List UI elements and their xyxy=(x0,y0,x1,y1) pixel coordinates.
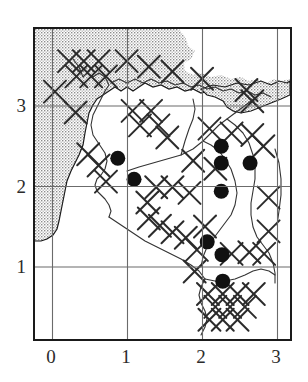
x-tick-label-2: 2 xyxy=(196,347,206,366)
record-dot-1 xyxy=(127,172,142,187)
record-dot-0 xyxy=(110,151,125,166)
presence-cross-25 xyxy=(182,150,204,172)
map-canvas xyxy=(35,29,290,339)
presence-cross-51 xyxy=(227,309,249,331)
x-tick-label-0: 0 xyxy=(46,347,56,366)
x-tick-label-3: 3 xyxy=(271,347,281,366)
presence-cross-52 xyxy=(243,283,265,305)
presence-cross-34 xyxy=(149,215,171,237)
record-dot-markers xyxy=(110,139,257,289)
y-tick-label-3: 3 xyxy=(0,96,26,115)
presence-cross-33 xyxy=(138,208,160,230)
x-tick-label-1: 1 xyxy=(121,347,131,366)
record-dot-2 xyxy=(214,139,229,154)
presence-cross-22 xyxy=(252,135,274,157)
figure-root: 0 1 2 3 3 2 1 xyxy=(0,0,308,382)
map-plot-area xyxy=(33,27,292,341)
presence-cross-18 xyxy=(156,126,178,148)
y-tick-label-1: 1 xyxy=(0,257,26,276)
presence-cross-31 xyxy=(258,187,280,209)
record-dot-7 xyxy=(215,247,230,262)
record-dot-4 xyxy=(243,156,258,171)
presence-cross-19 xyxy=(198,118,220,140)
presence-cross-30 xyxy=(178,182,200,204)
record-dot-3 xyxy=(214,156,229,171)
record-dot-8 xyxy=(215,274,230,289)
presence-cross-29 xyxy=(161,176,183,198)
y-tick-label-2: 2 xyxy=(0,177,26,196)
presence-cross-37 xyxy=(258,220,280,242)
presence-cross-49 xyxy=(234,296,256,318)
